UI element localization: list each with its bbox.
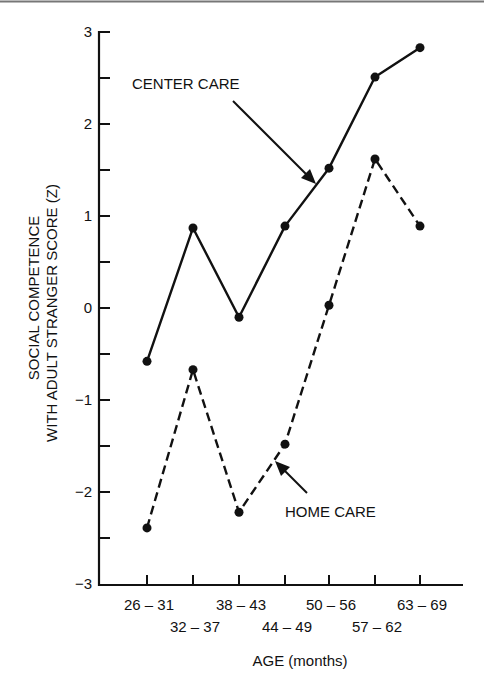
y-tick-label: 0 xyxy=(84,299,92,316)
center-care-point xyxy=(143,357,152,366)
y-tick-label: −3 xyxy=(75,575,92,592)
x-category-label: 57 – 62 xyxy=(352,618,402,635)
center-care-point xyxy=(235,313,244,322)
y-axis-title-line2: WITH ADULT STRANGER SCORE (Z) xyxy=(43,184,60,442)
center-care-point xyxy=(281,222,290,231)
home-care-point xyxy=(189,365,198,374)
y-tick-label: −2 xyxy=(75,483,92,500)
y-axis: 3210−1−2−3 xyxy=(75,23,110,592)
home-care-point xyxy=(143,523,152,532)
x-axis-title: AGE (months) xyxy=(252,652,347,669)
center-care-label: CENTER CARE xyxy=(132,75,240,92)
center-care-point xyxy=(416,43,425,52)
x-category-label: 44 – 49 xyxy=(262,618,312,635)
home-care-point xyxy=(371,154,380,163)
center-care-point xyxy=(325,164,334,173)
center-care-point xyxy=(371,73,380,82)
home-care-label: HOME CARE xyxy=(285,503,376,520)
y-tick-label: 3 xyxy=(84,23,92,40)
home-care-point xyxy=(281,440,290,449)
home-care-point xyxy=(416,222,425,231)
x-category-label: 50 – 56 xyxy=(306,596,356,613)
center-care-point xyxy=(189,223,198,232)
y-tick-label: 2 xyxy=(84,115,92,132)
x-category-label: 63 – 69 xyxy=(397,596,447,613)
x-axis: 26 – 3138 – 4350 – 5663 – 6932 – 3744 – … xyxy=(98,575,463,635)
axis-titles: AGE (months) SOCIAL COMPETENCE WITH ADUL… xyxy=(25,184,348,669)
home-care-point xyxy=(325,301,334,310)
y-tick-label: −1 xyxy=(75,391,92,408)
y-tick-label: 1 xyxy=(84,207,92,224)
x-category-label: 26 – 31 xyxy=(124,596,174,613)
center-care-line xyxy=(147,48,420,362)
series-layer xyxy=(143,43,425,532)
y-axis-title-line1: SOCIAL COMPETENCE xyxy=(25,216,42,380)
line-chart: 3210−1−2−3 26 – 3138 – 4350 – 5663 – 693… xyxy=(0,0,484,688)
center-care-arrow xyxy=(233,101,309,177)
home-care-point xyxy=(235,508,244,517)
x-category-label: 38 – 43 xyxy=(216,596,266,613)
x-category-label: 32 – 37 xyxy=(170,618,220,635)
